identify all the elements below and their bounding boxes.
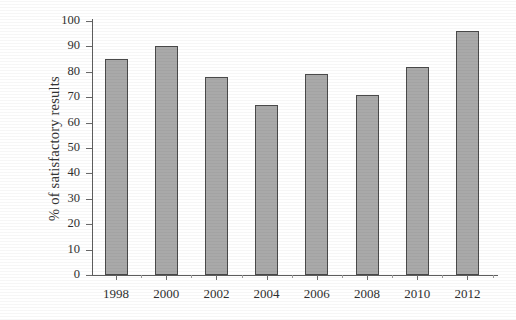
y-axis-tick-label-text: 90	[52, 39, 80, 52]
y-axis-tick	[86, 275, 92, 276]
y-axis-tick-label-text: 10	[52, 243, 80, 256]
bar	[406, 67, 429, 275]
y-axis-tick-label: 10	[50, 243, 80, 256]
x-axis-tick	[367, 275, 368, 280]
plot-area	[92, 21, 494, 275]
bar	[155, 46, 178, 275]
y-axis-tick-label-text: 60	[52, 116, 80, 129]
x-axis-minor-tick	[191, 275, 192, 278]
y-axis-tick-label: 60	[50, 116, 80, 129]
y-axis-tick-label-text: 70	[52, 90, 80, 103]
x-axis-minor-tick	[292, 275, 293, 278]
y-axis-tick-label: 30	[50, 192, 80, 205]
y-axis-tick-label: 50	[50, 141, 80, 154]
x-axis-tick	[267, 275, 268, 280]
y-axis-tick-label: 80	[50, 65, 80, 78]
x-axis-tick	[116, 275, 117, 280]
y-axis-tick-label-text: 40	[52, 166, 80, 179]
y-axis-tick-label-text: 50	[52, 141, 80, 154]
x-axis-minor-tick	[392, 275, 393, 278]
y-axis-tick-label: 40	[50, 166, 80, 179]
bar	[456, 31, 479, 275]
bar	[255, 105, 278, 275]
x-axis-tick	[317, 275, 318, 280]
y-axis-tick-label: 0	[50, 268, 80, 281]
bar	[356, 95, 379, 275]
y-axis-tick-label: 70	[50, 90, 80, 103]
x-axis-minor-tick	[442, 275, 443, 278]
y-axis-tick-label: 20	[50, 217, 80, 230]
bar	[305, 74, 328, 275]
y-axis-tick-label-text: 20	[52, 217, 80, 230]
x-axis-tick	[417, 275, 418, 280]
y-axis-tick-label-text: 30	[52, 192, 80, 205]
x-axis-tick-label: 2012	[437, 287, 497, 301]
x-axis-tick	[467, 275, 468, 280]
y-axis-tick-label: 90	[50, 39, 80, 52]
y-axis-tick-label: 100	[50, 14, 80, 27]
x-axis-minor-tick	[242, 275, 243, 278]
y-axis-tick-label-text: 80	[52, 65, 80, 78]
x-axis-minor-tick	[342, 275, 343, 278]
y-axis-tick-label-text: 0	[52, 268, 80, 281]
x-axis-tick	[166, 275, 167, 280]
y-axis-tick-label-text: 100	[52, 14, 80, 27]
bar	[105, 59, 128, 275]
x-axis-minor-tick	[141, 275, 142, 278]
bar	[205, 77, 228, 275]
x-axis-tick	[216, 275, 217, 280]
bar-chart-figure: % of satisfactory results 10090807060504…	[0, 0, 516, 320]
x-axis-minor-tick	[493, 275, 494, 278]
